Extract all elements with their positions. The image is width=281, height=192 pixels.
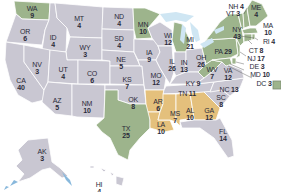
state-SD[interactable] (102, 29, 134, 52)
state-MA[interactable] (242, 28, 258, 34)
state-RI[interactable] (252, 34, 255, 40)
state-ME[interactable] (247, 0, 268, 26)
dc-legend-box (273, 81, 281, 89)
state-NM[interactable] (72, 84, 105, 118)
us-electoral-map (0, 0, 281, 192)
state-CO[interactable] (78, 60, 110, 84)
state-CT[interactable] (244, 34, 252, 42)
state-ND[interactable] (102, 7, 134, 30)
state-AZ[interactable] (42, 82, 72, 116)
state-WY[interactable] (66, 37, 102, 60)
state-DE[interactable] (232, 58, 236, 64)
state-HI[interactable] (90, 166, 124, 186)
state-AK[interactable] (16, 138, 68, 182)
state-KS[interactable] (110, 66, 144, 85)
state-FL[interactable] (180, 118, 234, 158)
